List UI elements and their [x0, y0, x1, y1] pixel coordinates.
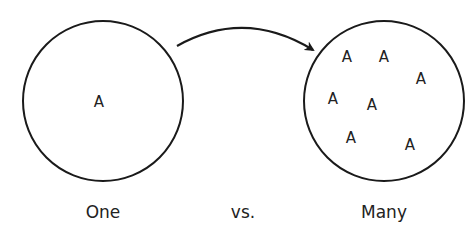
- right-item: A: [405, 136, 416, 154]
- right-item: A: [379, 48, 390, 66]
- right-item: A: [367, 96, 378, 114]
- left-item: A: [94, 93, 105, 111]
- one-label: One: [86, 202, 121, 222]
- right-item: A: [346, 129, 357, 147]
- many-label: Many: [361, 202, 407, 222]
- right-item: A: [342, 48, 353, 66]
- right-item: A: [416, 70, 427, 88]
- vs-label: vs.: [231, 202, 255, 222]
- right-item: A: [328, 90, 339, 108]
- many-circle-items: AAAAAAA: [328, 48, 427, 154]
- one-vs-many-diagram: A AAAAAAA One vs. Many: [0, 0, 476, 229]
- one-circle-items: A: [94, 93, 105, 111]
- arrow: [177, 28, 313, 50]
